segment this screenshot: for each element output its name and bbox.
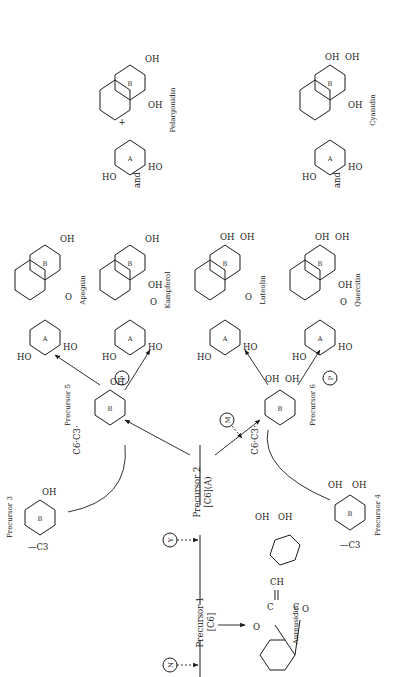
- svg-text:B: B: [278, 405, 283, 413]
- svg-text:OH: OH: [265, 374, 279, 384]
- svg-text:OH: OH: [345, 52, 359, 62]
- svg-text:OH: OH: [240, 232, 254, 242]
- svg-text:O: O: [253, 622, 260, 632]
- svg-text:HO: HO: [148, 342, 162, 352]
- svg-text:OH: OH: [145, 234, 159, 244]
- gene-Y: Y: [163, 533, 198, 547]
- svg-text:OH: OH: [148, 100, 162, 110]
- svg-text:Pelargonidin: Pelargonidin: [169, 87, 177, 132]
- svg-text:HO: HO: [348, 162, 362, 172]
- arrow-to-apegnin: [55, 355, 100, 385]
- svg-text:O: O: [302, 604, 309, 614]
- svg-text:OH: OH: [338, 280, 352, 290]
- svg-text:OH: OH: [315, 232, 329, 242]
- svg-text:CH: CH: [270, 577, 284, 587]
- svg-text:HO: HO: [197, 352, 211, 362]
- svg-text:B: B: [128, 260, 133, 268]
- svg-text:OH: OH: [60, 234, 74, 244]
- gene-M: M: [220, 413, 242, 438]
- svg-text:Precursor 4: Precursor 4: [374, 494, 382, 536]
- svg-text:OH: OH: [220, 232, 234, 242]
- svg-text:—C3: —C3: [28, 542, 48, 552]
- svg-text:Precursor 1: Precursor 1: [195, 597, 205, 648]
- svg-text:Precursor 2: Precursor 2: [192, 467, 202, 518]
- precursor-5: B OH C6·C3· Precursor 5: [64, 377, 125, 455]
- gene-N: N: [163, 658, 198, 672]
- svg-text:OH: OH: [285, 374, 299, 384]
- svg-text:A: A: [317, 335, 323, 343]
- svg-text:OH: OH: [328, 480, 342, 490]
- pathway-svg: N Precursor 1 [C6] Y Precursor 2 [C6](A)…: [0, 0, 393, 677]
- arrow-to-kampferol: [125, 350, 150, 390]
- aureusidin-structure: O C C O CH OH OH Aureusidin: [253, 512, 309, 670]
- precursor-4: B OH OH —C3 Precursor 4: [267, 430, 382, 550]
- svg-text:Y: Y: [167, 537, 175, 543]
- precursor-2: Precursor 2 [C6](A): [192, 467, 213, 518]
- svg-text:O: O: [245, 292, 252, 302]
- svg-text:Luteolin: Luteolin: [259, 275, 267, 305]
- quercitin-structure: A B HO HO O OH OH OH Quercitin: [290, 232, 362, 362]
- svg-text:Aureusidin: Aureusidin: [292, 605, 300, 645]
- svg-text:[C6]: [C6]: [206, 613, 216, 632]
- svg-text:HO: HO: [302, 172, 316, 182]
- svg-text:OH: OH: [255, 512, 269, 522]
- pelargonidin-structure: A + B HO HO OH OH Pelargonidin: [100, 54, 177, 182]
- precursor-1: Precursor 1 [C6]: [195, 597, 216, 648]
- svg-text:—C3: —C3: [340, 540, 360, 550]
- svg-text:B: B: [43, 260, 48, 268]
- svg-text:+: +: [118, 117, 125, 127]
- svg-text:P: P: [327, 375, 335, 380]
- svg-text:HO: HO: [243, 342, 257, 352]
- svg-text:HO: HO: [63, 342, 77, 352]
- svg-text:M: M: [224, 416, 232, 423]
- svg-text:Precursor 3: Precursor 3: [6, 496, 14, 538]
- svg-text:B: B: [348, 510, 353, 518]
- svg-text:OH: OH: [348, 100, 362, 110]
- svg-text:A: A: [42, 335, 48, 343]
- svg-text:B: B: [328, 80, 333, 88]
- pathway-diagram: N Precursor 1 [C6] Y Precursor 2 [C6](A)…: [0, 0, 393, 677]
- gene-P-2: P: [323, 371, 337, 385]
- svg-text:B: B: [108, 405, 113, 413]
- and-connector-2: and: [332, 171, 342, 188]
- svg-text:[C6](A): [C6](A): [203, 476, 213, 507]
- svg-text:HO: HO: [292, 352, 306, 362]
- svg-text:Quercitin: Quercitin: [354, 273, 362, 307]
- svg-text:O: O: [150, 297, 157, 307]
- svg-text:O: O: [65, 292, 72, 302]
- svg-text:HO: HO: [148, 162, 162, 172]
- svg-text:Apegnin: Apegnin: [79, 275, 87, 306]
- luteolin-structure: A B HO HO O OH OH Luteolin: [195, 232, 267, 362]
- svg-text:A: A: [222, 335, 228, 343]
- svg-text:Precursor 6: Precursor 6: [309, 384, 317, 426]
- apegnin-structure: A B HO HO O OH Apegnin: [15, 234, 87, 362]
- svg-text:HO: HO: [102, 352, 116, 362]
- svg-text:OH: OH: [148, 280, 162, 290]
- svg-text:OH: OH: [278, 512, 292, 522]
- svg-text:A: A: [127, 155, 133, 163]
- svg-text:B: B: [38, 515, 43, 523]
- svg-text:A: A: [127, 335, 133, 343]
- svg-text:Precursor 5: Precursor 5: [64, 384, 72, 426]
- svg-text:HO: HO: [102, 172, 116, 182]
- cyanidin-structure: A B HO HO OH OH OH Cyanidin: [300, 52, 377, 182]
- arrow-to-luteolin: [245, 350, 268, 385]
- arrow-to-precursor-5: [125, 420, 190, 455]
- svg-text:Cyanidin: Cyanidin: [369, 94, 377, 126]
- and-connector-1: and: [132, 171, 142, 188]
- svg-text:O: O: [340, 297, 347, 307]
- kampferol-structure: A B HO HO O OH OH Kampferol: [100, 234, 172, 362]
- svg-text:B: B: [223, 260, 228, 268]
- svg-text:A: A: [327, 155, 333, 163]
- precursor-3: B OH —C3 Precursor 3: [6, 445, 125, 552]
- svg-text:C: C: [267, 602, 274, 612]
- svg-text:OH: OH: [145, 54, 159, 64]
- svg-text:B: B: [318, 260, 323, 268]
- svg-text:C6·C3·: C6·C3·: [72, 425, 82, 454]
- svg-text:HO: HO: [17, 352, 31, 362]
- svg-text:OH: OH: [335, 232, 349, 242]
- svg-text:N: N: [167, 662, 175, 668]
- svg-text:HO: HO: [338, 342, 352, 352]
- svg-text:B: B: [128, 80, 133, 88]
- svg-text:Kampferol: Kampferol: [164, 271, 172, 309]
